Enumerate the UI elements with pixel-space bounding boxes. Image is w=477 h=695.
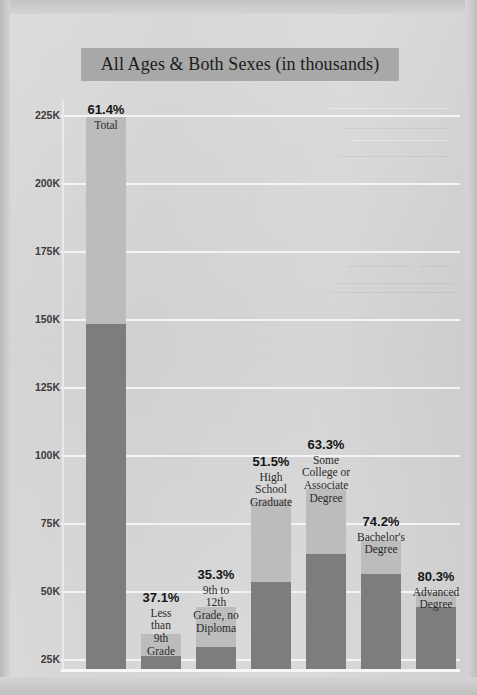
bar-segment-dark — [361, 574, 401, 669]
bar-category-label: Diploma — [180, 622, 252, 635]
bar-label: 74.2%Bachelor'sDegree — [345, 515, 417, 556]
x-axis-baseline — [61, 669, 460, 672]
paper-edge-bottom — [0, 677, 477, 695]
bar-percent-label: 35.3% — [180, 568, 252, 583]
bar-percent-label: 80.3% — [400, 570, 472, 585]
bar-category-label: 9th to — [180, 584, 252, 597]
bar-segment-dark — [86, 324, 126, 669]
bar-category-label: Degree — [400, 598, 472, 611]
bar-percent-label: 61.4% — [70, 103, 142, 118]
bar-percent-label: 63.3% — [290, 438, 362, 453]
bar-category-label: Some — [290, 454, 362, 467]
bar-category-label: Degree — [345, 543, 417, 556]
bar-category-label: 12th — [180, 596, 252, 609]
y-tick-label: 200K — [18, 177, 60, 189]
y-tick-label: 50K — [18, 585, 60, 597]
bar-label: 35.3%9th to12thGrade, noDiploma — [180, 568, 252, 635]
bar-category-label: Degree — [290, 492, 362, 505]
paper-edge-left — [0, 0, 10, 695]
bar-segment-dark — [196, 647, 236, 669]
chart-panel: All Ages & Both Sexes (in thousands) 225… — [18, 18, 460, 678]
bar-category-label: Advanced — [400, 586, 472, 599]
bar-category-label: Grade — [125, 645, 197, 658]
bar-label: 63.3%SomeCollege orAssociateDegree — [290, 438, 362, 505]
plot-area: 225K200K175K150K125K100K75K50K25K 61.4%T… — [18, 18, 460, 678]
bar[interactable] — [361, 541, 401, 669]
bar-segment-dark — [416, 607, 456, 669]
y-tick-label: 125K — [18, 381, 60, 393]
bar-category-label: Total — [70, 119, 142, 132]
bar-label: 61.4%Total — [70, 103, 142, 131]
bar-category-label: Grade, no — [180, 609, 252, 622]
bar[interactable] — [86, 117, 126, 669]
y-tick-label: 175K — [18, 245, 60, 257]
y-tick-label: 75K — [18, 517, 60, 529]
bar[interactable] — [306, 489, 346, 669]
bar[interactable] — [251, 499, 291, 669]
bar-category-label: Associate — [290, 479, 362, 492]
y-axis-line — [62, 100, 64, 670]
bar-segment-light — [86, 117, 126, 324]
bar-percent-label: 74.2% — [345, 515, 417, 530]
bar-segment-light — [251, 499, 291, 582]
bar-segment-dark — [251, 582, 291, 669]
bar-label: 80.3%AdvancedDegree — [400, 570, 472, 611]
y-tick-label: 100K — [18, 449, 60, 461]
bar-category-label: Bachelor's — [345, 531, 417, 544]
paper-edge-top — [0, 0, 477, 14]
y-tick-label: 25K — [18, 653, 60, 665]
y-tick-label: 225K — [18, 109, 60, 121]
bar-segment-dark — [306, 554, 346, 669]
bar-category-label: College or — [290, 466, 362, 479]
y-tick-label: 150K — [18, 313, 60, 325]
